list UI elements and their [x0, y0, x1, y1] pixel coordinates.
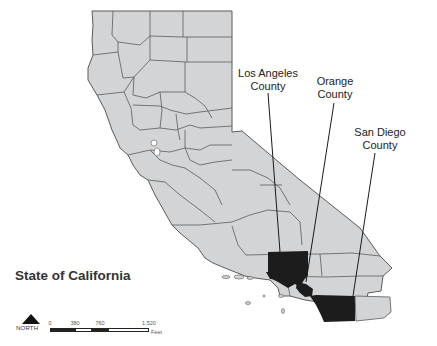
scale-unit: Feet: [151, 329, 162, 335]
california-state-shape: [88, 11, 392, 306]
scale-segment-4: [108, 328, 149, 332]
north-arrow: NORTH: [16, 314, 46, 331]
north-arrow-icon: [22, 314, 40, 324]
scale-segment-3: [91, 328, 108, 332]
los-angeles-label-line2: County: [233, 80, 303, 93]
scale-tick-1: 380: [70, 320, 79, 326]
los-angeles-label-line1: Los Angeles: [233, 67, 303, 80]
los-angeles-county-label: Los Angeles County: [233, 67, 303, 93]
imperial-county-shape: [355, 296, 391, 321]
scale-tick-3: 1,520: [142, 320, 156, 326]
orange-label-line1: Orange: [308, 75, 362, 88]
san-diego-label-line2: County: [348, 139, 412, 152]
north-label: NORTH: [16, 325, 46, 331]
san-diego-county-label: San Diego County: [348, 126, 412, 152]
map-title: State of California: [15, 268, 131, 283]
orange-label-line2: County: [308, 88, 362, 101]
scale-tick-0: 0: [48, 320, 51, 326]
scale-tick-2: 760: [95, 320, 104, 326]
san-diego-county-shape: [310, 295, 355, 322]
scale-segment-1: [50, 328, 75, 332]
orange-county-label: Orange County: [308, 75, 362, 101]
san-diego-label-line1: San Diego: [348, 126, 412, 139]
scale-bar: 0 380 760 1,520 Feet: [49, 320, 149, 340]
california-map: [0, 0, 437, 346]
